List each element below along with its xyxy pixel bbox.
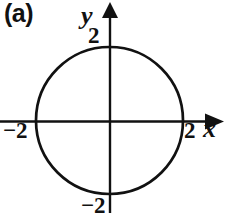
y-axis <box>102 2 118 213</box>
x-tick-label-negative-2: −2 <box>3 119 28 142</box>
plot-canvas <box>0 0 231 213</box>
arrow-up-icon <box>102 2 118 18</box>
y-tick-label-positive-2: 2 <box>88 24 100 47</box>
x-axis-label: x <box>203 116 216 142</box>
x-tick-label-positive-2: 2 <box>184 119 196 142</box>
figure-panel-a: (a) y x 2 −2 2 −2 <box>0 0 231 213</box>
panel-label: (a) <box>4 1 33 26</box>
y-tick-label-negative-2: −2 <box>81 194 106 213</box>
